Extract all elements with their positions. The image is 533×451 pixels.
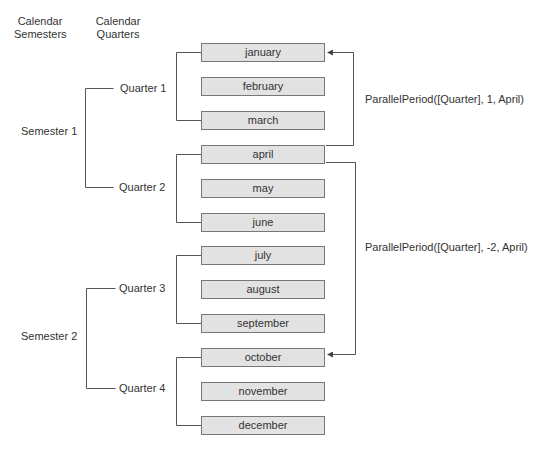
annotation-parallelperiod-backward: ParallelPeriod([Quarter], -2, April) <box>365 241 528 254</box>
month-box-december: december <box>201 416 325 435</box>
month-box-april: april <box>201 145 325 164</box>
quarter-3-label: Quarter 3 <box>119 282 165 295</box>
quarter-1-label: Quarter 1 <box>120 82 166 95</box>
semester-2-label: Semester 2 <box>21 330 77 343</box>
month-box-november: november <box>201 382 325 401</box>
month-box-september: september <box>201 314 325 333</box>
annotation-parallelperiod-forward: ParallelPeriod([Quarter], 1, April) <box>365 93 524 106</box>
header-calendar-quarters: Calendar Quarters <box>92 15 144 41</box>
quarter-4-label: Quarter 4 <box>119 382 165 395</box>
month-box-january: january <box>201 43 325 62</box>
quarter-2-label: Quarter 2 <box>119 181 165 194</box>
month-box-may: may <box>201 179 325 198</box>
month-box-march: march <box>201 111 325 130</box>
month-box-february: february <box>201 77 325 96</box>
month-box-june: june <box>201 213 325 232</box>
header-calendar-semesters: Calendar Semesters <box>14 15 66 41</box>
semester-1-label: Semester 1 <box>21 125 77 138</box>
month-box-october: october <box>201 348 325 367</box>
month-box-august: august <box>201 280 325 299</box>
month-box-july: july <box>201 246 325 265</box>
